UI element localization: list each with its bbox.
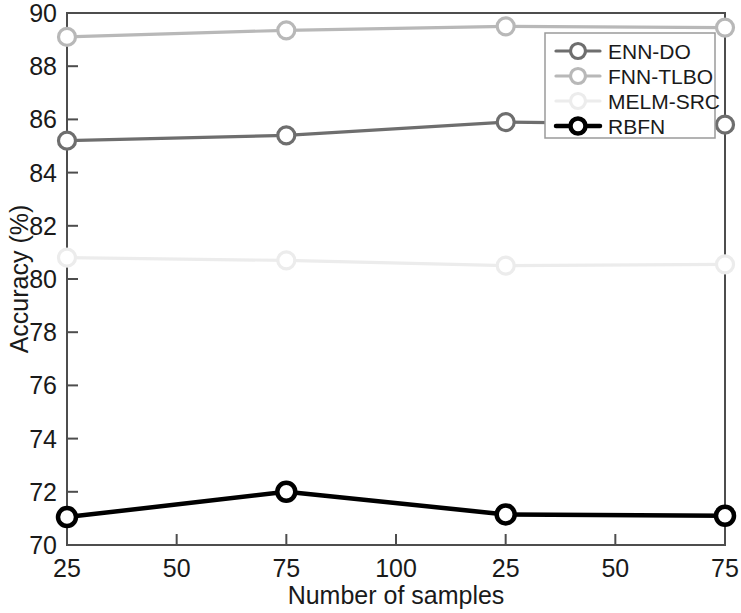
y-axis-title-text: Accuracy (%) [5,205,33,354]
x-axis-title-text: Number of samples [288,581,505,609]
data-point-marker [497,505,515,523]
y-tick-label: 84 [29,159,57,187]
legend-item-enn-do[interactable]: ENN-DO [556,40,691,63]
x-tick-label: 75 [711,554,739,582]
y-tick-label: 78 [29,318,57,346]
legend-item-melm-src[interactable]: MELM-SRC [556,90,720,113]
y-tick-label: 76 [29,371,57,399]
x-tick-label: 50 [601,554,629,582]
data-point-marker [278,252,295,269]
y-tick-label: 82 [29,212,57,240]
chart-figure: 7072747678808284868890 255075100255075 A… [0,0,741,613]
data-point-marker [717,256,734,273]
y-tick-label: 72 [29,478,57,506]
legend-marker-icon [571,69,586,84]
y-tick-label: 74 [29,425,57,453]
legend-item-label: ENN-DO [608,40,691,63]
x-tick-label: 75 [272,554,300,582]
legend-item-label: RBFN [608,115,665,138]
y-axis-title: Accuracy (%) [5,205,33,354]
data-point-marker [497,257,514,274]
data-point-marker [716,507,734,525]
legend-item-fnn-tlbo[interactable]: FNN-TLBO [556,65,713,88]
data-point-marker [277,483,295,501]
x-tick-label: 25 [492,554,520,582]
legend-item-label: MELM-SRC [608,90,720,113]
data-point-marker [59,249,76,266]
y-tick-label: 90 [29,0,57,27]
data-point-marker [59,28,76,45]
x-tick-label: 50 [163,554,191,582]
y-tick-label: 80 [29,265,57,293]
y-tick-label: 86 [29,105,57,133]
y-tick-label: 88 [29,52,57,80]
legend-marker-icon [571,44,586,59]
data-point-marker [717,19,734,36]
data-point-marker [58,508,76,526]
data-point-marker [278,127,295,144]
data-point-marker [717,116,734,133]
data-point-marker [497,114,514,131]
legend[interactable]: ENN-DOFNN-TLBOMELM-SRCRBFN [545,33,720,138]
x-tick-label: 25 [53,554,81,582]
x-tick-label: 100 [375,554,417,582]
legend-marker-icon [571,119,586,134]
data-point-marker [278,22,295,39]
data-point-marker [59,132,76,149]
legend-item-label: FNN-TLBO [608,65,713,88]
accuracy-line-chart: 7072747678808284868890 255075100255075 A… [0,0,741,613]
data-point-marker [497,18,514,35]
legend-marker-icon [571,94,586,109]
